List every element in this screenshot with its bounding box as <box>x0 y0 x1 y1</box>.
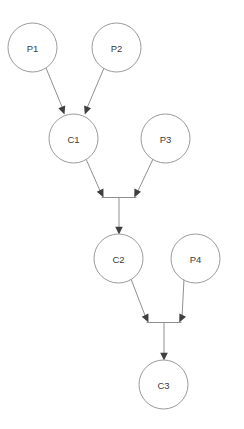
node-label: P1 <box>27 43 39 54</box>
node-c3[interactable]: C3 <box>139 360 188 409</box>
edge-line <box>86 159 101 193</box>
edge-line <box>131 279 146 318</box>
junction-1 <box>102 198 137 235</box>
node-p1[interactable]: P1 <box>8 23 57 72</box>
edge-p1-to-c1 <box>46 68 65 115</box>
node-p4[interactable]: P4 <box>171 234 220 283</box>
flow-diagram: P1 P2 C1 P3 C2 P4 C3 <box>0 0 244 429</box>
node-p3[interactable]: P3 <box>141 114 190 163</box>
edge-line <box>182 279 184 318</box>
edge-p2-to-c1 <box>84 68 104 115</box>
node-c1[interactable]: C1 <box>49 114 98 163</box>
edge-c2-to-junction2 <box>131 279 149 323</box>
edge-line <box>87 68 104 108</box>
arrow-head-icon <box>134 189 141 198</box>
arrow-head-icon <box>115 227 123 235</box>
edge-p3-to-junction1 <box>134 159 153 198</box>
node-label: P3 <box>160 134 172 145</box>
node-label: P4 <box>190 254 202 265</box>
edge-p4-to-junction2 <box>179 279 186 323</box>
diagram-canvas: P1 P2 C1 P3 C2 P4 C3 <box>0 0 244 429</box>
node-p2[interactable]: P2 <box>92 23 141 72</box>
node-c2[interactable]: C2 <box>94 234 143 283</box>
arrow-head-icon <box>160 353 168 361</box>
node-label: C1 <box>67 134 79 145</box>
junction-2 <box>147 323 182 361</box>
edge-line <box>137 159 153 193</box>
edge-line <box>46 68 63 108</box>
edge-c1-to-junction1 <box>86 159 104 198</box>
node-label: C2 <box>112 254 124 265</box>
node-label: C3 <box>157 380 169 391</box>
node-label: P2 <box>111 43 123 54</box>
